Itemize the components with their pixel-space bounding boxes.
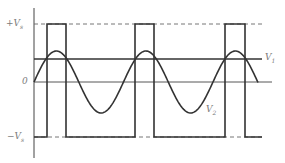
zero-label: 0 bbox=[22, 77, 28, 86]
v2-label: V2 bbox=[206, 105, 216, 116]
minus-vs-label: −Vs bbox=[7, 132, 24, 143]
waveform-diagram: +Vs 0 −Vs V1 V2 bbox=[0, 0, 285, 163]
square-wave bbox=[34, 24, 262, 137]
plus-vs-label: +Vs bbox=[6, 19, 23, 30]
waveform-plot bbox=[0, 0, 285, 163]
v1-label: V1 bbox=[265, 53, 275, 64]
